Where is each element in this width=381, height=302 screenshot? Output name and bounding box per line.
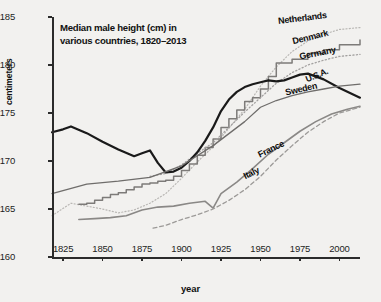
chart-figure: Median male height (cm) in various count… <box>0 0 381 302</box>
x-tick <box>339 257 340 261</box>
y-tick-label: 185 <box>0 11 15 22</box>
x-tick-label: 1950 <box>250 243 270 254</box>
x-tick <box>299 257 300 261</box>
x-tick-label: 1900 <box>171 243 191 254</box>
series-line-france <box>79 106 360 219</box>
y-tick <box>48 16 52 17</box>
series-line-denmark <box>79 40 360 204</box>
y-tick <box>48 112 52 113</box>
x-tick-label: 1925 <box>211 243 231 254</box>
x-tick <box>220 257 221 261</box>
y-tick <box>48 208 52 209</box>
x-tick <box>62 257 63 261</box>
y-tick-label: 160 <box>0 251 15 262</box>
x-tick-label: 1875 <box>132 243 152 254</box>
y-tick-label: 170 <box>0 155 15 166</box>
x-tick <box>181 257 182 261</box>
x-tick <box>102 257 103 261</box>
x-tick-label: 2000 <box>329 243 349 254</box>
x-tick <box>141 257 142 261</box>
y-tick <box>48 64 52 65</box>
y-tick <box>48 160 52 161</box>
y-axis-line <box>52 17 54 257</box>
y-tick-label: 175 <box>0 107 15 118</box>
y-tick-label: 165 <box>0 203 15 214</box>
x-tick <box>260 257 261 261</box>
x-axis-title: year <box>0 283 381 294</box>
x-tick-label: 1850 <box>92 243 112 254</box>
y-tick <box>48 256 52 257</box>
x-axis-line <box>52 257 360 259</box>
x-tick-label: 1975 <box>290 243 310 254</box>
y-tick-label: 180 <box>0 59 15 70</box>
x-tick-label: 1825 <box>53 243 73 254</box>
